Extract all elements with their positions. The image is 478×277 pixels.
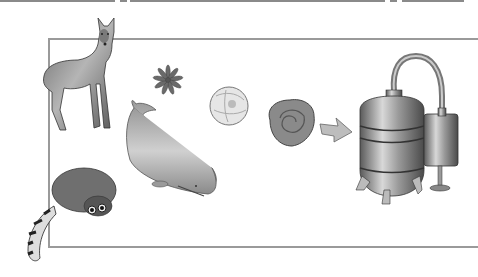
arrow-icon — [320, 118, 352, 142]
civet-figure — [28, 168, 116, 261]
white-blossom-figure — [210, 87, 248, 125]
sperm-whale-figure — [127, 101, 217, 196]
musk-deer-figure — [43, 18, 114, 130]
distillation-apparatus-figure — [356, 56, 458, 204]
rose-figure — [269, 100, 314, 146]
small-flower-figure — [153, 65, 183, 95]
